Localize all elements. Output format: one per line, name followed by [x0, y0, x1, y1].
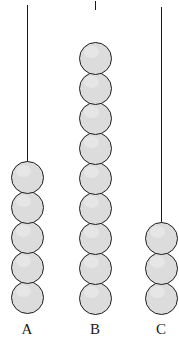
bead-highlight: [84, 256, 99, 268]
bead: [79, 192, 112, 225]
bead: [79, 42, 112, 75]
bead-highlight: [84, 286, 99, 298]
bead-highlight: [150, 256, 165, 268]
bead: [145, 222, 178, 255]
bead: [11, 221, 44, 254]
bead-highlight: [16, 255, 31, 267]
bead: [145, 282, 178, 315]
bead-highlight: [84, 46, 99, 58]
bead-highlight: [16, 165, 31, 177]
bead-highlight: [84, 76, 99, 88]
bead-highlight: [150, 286, 165, 298]
bead: [11, 281, 44, 314]
bead: [11, 161, 44, 194]
bead: [79, 102, 112, 135]
bead: [79, 252, 112, 285]
bead-highlight: [16, 285, 31, 297]
bead: [79, 162, 112, 195]
column-label-c: C: [141, 322, 179, 337]
bead-highlight: [84, 106, 99, 118]
bead-highlight: [84, 226, 99, 238]
bead-highlight: [16, 195, 31, 207]
string-c: [161, 7, 162, 228]
bead-highlight: [16, 225, 31, 237]
bead: [79, 132, 112, 165]
bead: [11, 251, 44, 284]
bead-highlight: [84, 136, 99, 148]
bead-highlight: [84, 166, 99, 178]
bead-highlight: [150, 226, 165, 238]
bead: [79, 282, 112, 315]
bead: [79, 222, 112, 255]
bead: [79, 72, 112, 105]
bead-highlight: [84, 196, 99, 208]
bead-columns-figure: ABC: [0, 0, 179, 339]
bead: [11, 191, 44, 224]
bead: [145, 252, 178, 285]
